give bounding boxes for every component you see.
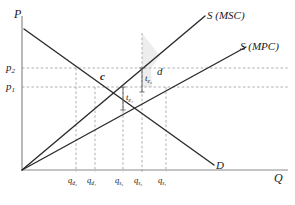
- price-label-p2: p2: [6, 62, 15, 75]
- quantity-label-qs2-prime: qs₂: [134, 176, 142, 186]
- price-label-p1: p1: [6, 81, 15, 94]
- x-axis-label: Q: [274, 172, 283, 184]
- area-label-d: d: [157, 66, 163, 77]
- quantity-label-qd2: qd₂: [68, 176, 77, 186]
- quantity-label-qs2: qs₂: [115, 176, 123, 186]
- quantity-label-qs1: qs₁: [158, 176, 166, 186]
- demand-label: D: [216, 160, 224, 171]
- price-gridlines: [22, 68, 288, 87]
- supply-msc-label: S (MSC): [207, 10, 245, 21]
- tax-label-e2: te₂: [145, 74, 152, 84]
- quantity-label-qd1: qd₁: [87, 176, 96, 186]
- area-label-c: c: [100, 71, 105, 82]
- supply-mpc-label: S (MPC): [240, 41, 279, 52]
- diagram-canvas: [0, 0, 295, 205]
- y-axis-label: P: [14, 8, 21, 20]
- tax-label-e1: te₁: [126, 93, 133, 103]
- externality-diagram: P Q S (MSC) S (MPC) D p2 p1 qd₂ qd₁ qs₂ …: [0, 0, 295, 205]
